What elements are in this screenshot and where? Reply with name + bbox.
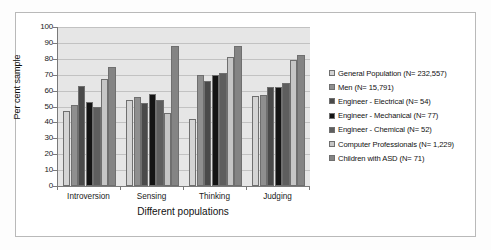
bar-group [121, 27, 184, 186]
y-axis-tick-label: 10 [31, 166, 53, 174]
legend-item[interactable]: General Population (N= 232,557) [329, 66, 479, 80]
bar [164, 113, 171, 186]
legend-swatch-icon [329, 84, 335, 90]
y-axis-tick-label: 100 [31, 23, 53, 31]
y-axis-tick-mark [53, 154, 57, 155]
legend-swatch-icon [329, 70, 335, 76]
y-axis-tick-labels: 0102030405060708090100 [27, 27, 53, 186]
y-axis-tick-label: 80 [31, 55, 53, 63]
bar [267, 87, 274, 186]
y-axis-tick-mark [53, 107, 57, 108]
y-axis-tick-mark [53, 59, 57, 60]
y-axis-tick-label: 50 [31, 103, 53, 111]
bar [141, 103, 148, 186]
y-axis-tick-mark [53, 27, 57, 28]
bar [93, 107, 100, 187]
x-axis-tick-mark [309, 186, 310, 190]
bar-group [58, 27, 121, 186]
bar [282, 83, 289, 186]
bar [234, 46, 241, 186]
y-axis-tick-label: 20 [31, 150, 53, 158]
legend-item[interactable]: Children with ASD (N= 71) [329, 151, 479, 165]
legend-swatch-icon [329, 98, 335, 104]
bar [134, 97, 141, 186]
bar [212, 75, 219, 186]
legend-item[interactable]: Men (N= 15,791) [329, 80, 479, 94]
x-axis-title: Different populations [57, 206, 309, 217]
bar [252, 96, 259, 186]
plot-area [57, 27, 310, 187]
legend-label: Engineer - Mechanical (N= 77) [338, 111, 438, 120]
legend-swatch-icon [329, 127, 335, 133]
bar [275, 87, 282, 186]
bar [126, 100, 133, 186]
x-axis-tick-mark [183, 186, 184, 190]
x-axis-tick-mark [120, 186, 121, 190]
chart-legend: General Population (N= 232,557)Men (N= 1… [329, 66, 479, 165]
bar [78, 86, 85, 186]
y-axis-tick-label: 30 [31, 134, 53, 142]
bar-group [247, 27, 310, 186]
legend-item[interactable]: Engineer - Mechanical (N= 77) [329, 109, 479, 123]
y-axis-tick-mark [53, 138, 57, 139]
legend-item[interactable]: Engineer - Chemical (N= 52) [329, 123, 479, 137]
y-axis-title: Per cent sample [12, 37, 22, 137]
bar [204, 81, 211, 186]
legend-label: General Population (N= 232,557) [338, 69, 447, 78]
legend-label: Engineer - Chemical (N= 52) [338, 125, 432, 134]
legend-item[interactable]: Computer Professionals (N= 1,229) [329, 137, 479, 151]
bar-group [184, 27, 247, 186]
bar [108, 67, 115, 186]
x-axis-tick-mark [246, 186, 247, 190]
y-axis-tick-label: 70 [31, 71, 53, 79]
y-axis-tick-mark [53, 43, 57, 44]
bar [189, 119, 196, 186]
y-axis-tick-mark [53, 170, 57, 171]
bar [86, 102, 93, 186]
legend-label: Computer Professionals (N= 1,229) [338, 140, 454, 149]
bar [219, 73, 226, 186]
legend-label: Children with ASD (N= 71) [338, 154, 424, 163]
y-axis-tick-label: 60 [31, 87, 53, 95]
legend-swatch-icon [329, 155, 335, 161]
bar [290, 60, 297, 186]
legend-swatch-icon [329, 141, 335, 147]
y-axis-tick-mark [53, 122, 57, 123]
legend-label: Men (N= 15,791) [338, 83, 394, 92]
bar [149, 94, 156, 186]
bar [63, 111, 70, 186]
y-axis-tick-label: 40 [31, 118, 53, 126]
legend-label: Engineer - Electrical (N= 54) [338, 97, 431, 106]
y-axis-tick-label: 0 [31, 182, 53, 190]
bar [101, 79, 108, 186]
y-axis-tick-mark [53, 91, 57, 92]
legend-swatch-icon [329, 113, 335, 119]
bar [71, 105, 78, 186]
bar [297, 55, 304, 186]
bar [156, 100, 163, 186]
bar [197, 75, 204, 186]
legend-item[interactable]: Engineer - Electrical (N= 54) [329, 94, 479, 108]
y-axis-tick-mark [53, 186, 57, 187]
bar [171, 46, 178, 186]
x-axis-tick-label: Judging [238, 192, 318, 201]
x-axis-tick-mark [57, 186, 58, 190]
chart-figure: Per cent sample 0102030405060708090100 I… [0, 0, 491, 250]
bar [227, 57, 234, 186]
y-axis-tick-mark [53, 75, 57, 76]
bar [260, 95, 267, 186]
y-axis-tick-label: 90 [31, 39, 53, 47]
